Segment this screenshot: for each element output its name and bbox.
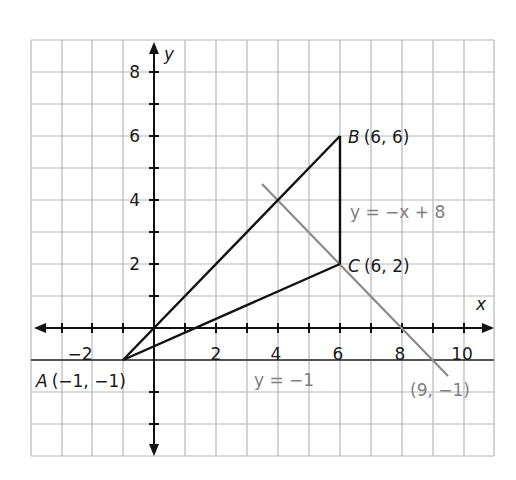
x-axis-arrow-left-icon (34, 323, 46, 333)
y-axis-arrow-up-icon (149, 42, 159, 54)
y-axis-label: y (163, 44, 175, 64)
triangle-abc (123, 136, 340, 360)
x-axis-label: x (475, 294, 487, 314)
svg-text:8: 8 (129, 62, 140, 82)
svg-text:4: 4 (271, 344, 282, 364)
y-axis-arrow-down-icon (149, 444, 159, 456)
point-b-label: B(6, 6) (348, 127, 409, 147)
svg-text:6: 6 (333, 344, 344, 364)
svg-text:2: 2 (211, 344, 222, 364)
line1-label: y = −x + 8 (350, 202, 445, 222)
line2-label: y = −1 (254, 370, 314, 390)
x-axis (34, 323, 494, 333)
svg-text:2: 2 (129, 254, 140, 274)
y-axis (149, 42, 159, 456)
svg-text:6: 6 (129, 126, 140, 146)
point-a-label: A(−1, −1) (35, 371, 126, 391)
point-c-label: C(6, 2) (348, 256, 410, 276)
x-axis-arrow-right-icon (482, 323, 494, 333)
coordinate-graph: −2 2 4 6 8 10 2 4 6 8 y x A(−1, −1) B(6,… (0, 0, 516, 480)
svg-text:8: 8 (395, 344, 406, 364)
svg-text:−2: −2 (67, 344, 92, 364)
svg-text:10: 10 (451, 344, 473, 364)
svg-text:4: 4 (129, 190, 140, 210)
point-9-neg1-label: (9, −1) (410, 380, 470, 400)
